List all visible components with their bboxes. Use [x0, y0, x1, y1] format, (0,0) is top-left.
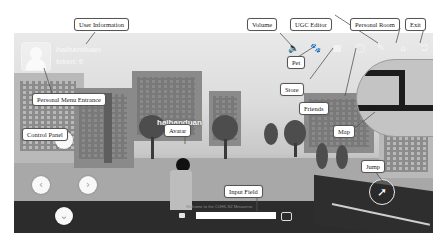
callout-map: Map	[333, 125, 355, 138]
ugc-editor-icon[interactable]: ✎	[376, 43, 386, 53]
move-down-button[interactable]: ⌄	[55, 207, 73, 225]
game-viewport[interactable]: haihanduan token: 0 🔈 🐾 ▦ ◯ ✎ ⌂ ⎋ ⌃ ‹ › …	[14, 33, 433, 233]
callout-personal-room: Personal Room	[350, 18, 400, 31]
callout-pet: Pet	[287, 56, 305, 69]
callout-input-field: Input Field	[224, 185, 263, 198]
jump-button[interactable]: ➚	[369, 179, 395, 205]
volume-icon[interactable]: 🔈	[288, 43, 298, 53]
minimap[interactable]	[356, 59, 433, 137]
avatar-body-icon	[26, 58, 46, 70]
move-right-button[interactable]: ›	[79, 176, 97, 194]
tree	[336, 145, 348, 169]
callout-store: Store	[280, 83, 304, 96]
callout-user-information: User Information	[74, 18, 129, 31]
callout-ugc-editor: UGC Editor	[290, 18, 332, 31]
exit-icon[interactable]: ⎋	[419, 43, 429, 53]
tree	[212, 115, 238, 141]
store-icon[interactable]: ▦	[332, 43, 342, 53]
callout-exit: Exit	[405, 18, 426, 31]
personal-room-icon[interactable]: ⌂	[398, 43, 408, 53]
move-left-button[interactable]: ‹	[32, 176, 50, 194]
tree	[316, 143, 328, 169]
callout-avatar: Avatar	[164, 124, 191, 137]
tree-trunk	[294, 143, 297, 157]
callout-jump: Jump	[361, 160, 385, 173]
personal-menu-entrance[interactable]	[21, 42, 51, 71]
chat-hint: Welcome to the CUHK-SZ Metaverse	[186, 204, 252, 209]
callout-personal-menu-entrance: Personal Menu Entrance	[32, 93, 106, 106]
send-button[interactable]	[281, 212, 292, 221]
emoji-button[interactable]	[179, 213, 185, 218]
chat-input-field[interactable]	[196, 212, 276, 219]
tree	[264, 123, 278, 145]
callout-control-panel: Control Panel	[22, 128, 68, 141]
username: haihanduan	[56, 45, 101, 54]
map-path	[357, 105, 433, 111]
callout-friends: Friends	[299, 102, 329, 115]
tree-trunk	[151, 137, 154, 159]
map-path	[399, 70, 405, 105]
friends-icon[interactable]: ◯	[355, 43, 365, 53]
callout-volume: Volume	[247, 18, 277, 31]
tree-trunk	[224, 139, 227, 159]
pet-icon[interactable]: 🐾	[310, 43, 320, 53]
token-balance: token: 0	[56, 58, 83, 65]
